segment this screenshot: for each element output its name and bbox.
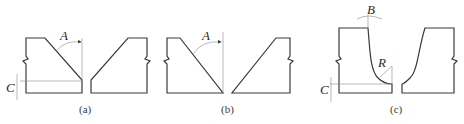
- panel-b-right-plate: [232, 38, 293, 93]
- panel-b-caption: (b): [221, 103, 234, 116]
- panel-a-caption: (a): [79, 103, 92, 116]
- panel-b-label-A: A: [201, 28, 210, 43]
- panel-a-left-plate: [23, 38, 82, 93]
- panel-c-label-R: R: [377, 55, 386, 70]
- weld-groove-diagram: A C (a) A (b) B R C (c): [0, 0, 464, 124]
- panel-c-caption: (c): [390, 103, 403, 116]
- panel-a: A C (a): [6, 28, 150, 116]
- panel-a-label-C: C: [6, 80, 15, 95]
- panel-a-right-plate: [91, 38, 150, 93]
- panel-c: B R C (c): [320, 2, 457, 116]
- panel-b-angle-arc: [193, 42, 221, 54]
- panel-a-label-A: A: [59, 28, 68, 43]
- panel-b-left-plate: [164, 38, 223, 93]
- panel-b: A (b): [164, 28, 293, 116]
- panel-c-label-C: C: [320, 82, 329, 97]
- panel-c-label-B: B: [367, 2, 375, 17]
- panel-c-right-plate: [402, 28, 457, 93]
